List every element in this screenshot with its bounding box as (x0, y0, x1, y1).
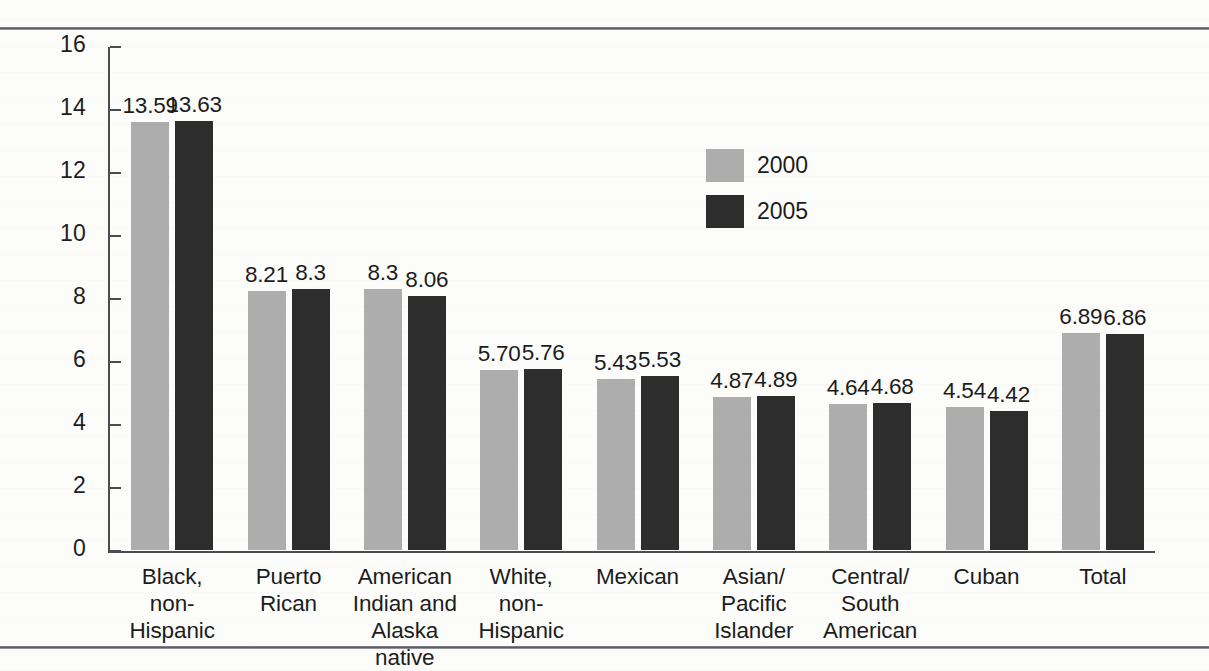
x-axis-category-label: Mexican (573, 563, 701, 590)
bar-value-label: 4.42 (969, 382, 1049, 408)
y-axis-tick-label: 4 (16, 409, 86, 436)
y-axis-tick-mark (110, 487, 121, 489)
y-axis-tick-label: 0 (16, 535, 86, 562)
bar (597, 379, 635, 550)
x-axis-category-label: Cuban (922, 563, 1050, 590)
page-top-rule (0, 27, 1209, 30)
x-axis-category-label: American Indian and Alaska native (341, 563, 469, 671)
bar (829, 404, 867, 550)
x-axis-category-label: White, non-Hispanic (457, 563, 585, 644)
bar (408, 296, 446, 550)
x-axis-category-label: Asian/ Pacific Islander (690, 563, 818, 644)
y-axis-line (108, 47, 110, 553)
page-bottom-rule (0, 646, 1209, 649)
y-axis-tick-mark (110, 550, 121, 552)
bar (873, 403, 911, 550)
bar (175, 121, 213, 550)
bar (1106, 334, 1144, 550)
y-axis-tick-mark (110, 361, 121, 363)
bar-value-label: 5.53 (620, 347, 700, 373)
bar (946, 407, 984, 550)
bar-value-label: 8.3 (271, 260, 351, 286)
plot-area: 0246810121416 13.5913.638.218.38.38.065.… (108, 47, 1155, 552)
bar-value-label: 13.63 (154, 92, 234, 118)
legend-label-2005: 2005 (757, 198, 808, 225)
y-axis-tick-mark (110, 235, 121, 237)
bar (990, 411, 1028, 550)
x-axis-category-label: Puerto Rican (224, 563, 352, 617)
y-axis-tick-mark (110, 46, 121, 48)
bar-value-label: 4.68 (852, 374, 932, 400)
bar (641, 376, 679, 550)
bar (757, 396, 795, 550)
bar (480, 370, 518, 550)
bar (248, 291, 286, 550)
x-axis-category-label: Black, non-Hispanic (108, 563, 236, 644)
legend-item-2005: 2005 (706, 188, 808, 234)
chart-figure: 0246810121416 13.5913.638.218.38.38.065.… (0, 0, 1209, 671)
legend-item-2000: 2000 (706, 142, 808, 188)
bar (1062, 333, 1100, 550)
legend-swatch-2000-icon (706, 149, 744, 182)
bar-value-label: 6.86 (1085, 305, 1165, 331)
legend-label-2000: 2000 (757, 152, 808, 179)
legend-swatch-2005-icon (706, 195, 744, 228)
y-axis-tick-label: 10 (16, 220, 86, 247)
y-axis-tick-label: 14 (16, 94, 86, 121)
bar-value-label: 5.76 (503, 340, 583, 366)
bar (524, 369, 562, 550)
bar (364, 289, 402, 550)
y-axis-tick-label: 8 (16, 283, 86, 310)
y-axis-tick-mark (110, 298, 121, 300)
bar (713, 397, 751, 550)
y-axis-tick-mark (110, 172, 121, 174)
chart-legend: 2000 2005 (706, 142, 808, 234)
x-axis-line (108, 551, 1155, 553)
x-axis-category-label: Central/ South American (806, 563, 934, 644)
bar (131, 122, 169, 550)
y-axis-tick-label: 12 (16, 157, 86, 184)
y-axis-tick-label: 6 (16, 346, 86, 373)
bar-value-label: 4.89 (736, 367, 816, 393)
y-axis-tick-label: 2 (16, 472, 86, 499)
x-axis-category-label: Total (1039, 563, 1167, 590)
bar (292, 289, 330, 550)
y-axis-tick-label: 16 (16, 31, 86, 58)
y-axis-tick-mark (110, 424, 121, 426)
bar-value-label: 8.06 (387, 267, 467, 293)
